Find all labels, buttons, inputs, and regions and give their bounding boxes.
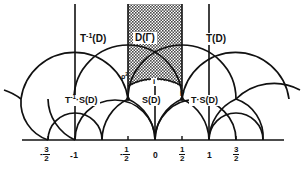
subregion-label-s-d: S(D) [140, 95, 163, 106]
subregion-label-t-inverse-s-d-tail: ·S(D) [76, 95, 98, 105]
axis-tick-label-zero: 0 [152, 151, 159, 160]
tick-value: 0 [153, 150, 158, 160]
tick-denominator: 2 [179, 154, 185, 163]
axis-tick-label-neg-three-halves: -32 [39, 146, 51, 163]
tick-denominator: 2 [123, 154, 129, 163]
tick-numerator: 3 [233, 146, 239, 154]
axis-tick-label-one-half: 12 [178, 146, 186, 163]
tick-fraction: 12 [179, 146, 185, 163]
vertex-label-i: i [151, 78, 157, 86]
vertex-dot-rho-squared [126, 97, 130, 101]
subregion-label-t-s-d: T·S(D) [189, 95, 220, 106]
tangent-pos-3half-right [236, 99, 263, 140]
tick-fraction: 12 [123, 146, 129, 163]
modular-domain-figure: T-1(D) D(Γ) T(D) T-1·S(D) S(D) T·S(D) ρ2… [0, 0, 304, 172]
vertex-label-rho-squared-exp: 2 [125, 72, 128, 77]
tick-numerator: 1 [123, 146, 129, 154]
region-label-d-gamma: D(Γ) [133, 32, 157, 44]
tick-fraction: 32 [233, 146, 239, 163]
axis-tick-label-three-halves: 32 [232, 146, 240, 163]
tick-numerator: 1 [179, 146, 185, 154]
arc-center-neg-3half [4, 90, 21, 99]
region-label-t-inverse-d: T-1(D) [78, 33, 108, 45]
tangent-neg-3half-left [21, 99, 48, 140]
tick-denominator: 2 [43, 154, 49, 163]
vertex-label-rho: ρ [179, 88, 185, 95]
axis-tick-label-neg-one-half: -12 [119, 146, 131, 163]
subregion-label-t-inverse-s-d: T-1·S(D) [63, 95, 100, 106]
tangent-neg-half-left [102, 99, 128, 140]
small-arc-neg-half [75, 100, 155, 140]
tick-value: 1 [207, 150, 212, 160]
region-label-t-inverse-d-tail: (D) [92, 33, 106, 44]
tick-value: 1 [73, 150, 78, 160]
arc-center-pos-3half [236, 83, 300, 99]
region-label-t-d: T(D) [204, 33, 228, 45]
vertex-label-rho-squared: ρ2 [120, 73, 129, 80]
vertex-dot-rho [180, 97, 184, 101]
tick-denominator: 2 [233, 154, 239, 163]
axis-tick-label-one: 1 [206, 151, 213, 160]
tick-fraction: 32 [43, 146, 49, 163]
tick-numerator: 3 [43, 146, 49, 154]
axis-tick-label-neg-one: -1 [69, 151, 79, 160]
